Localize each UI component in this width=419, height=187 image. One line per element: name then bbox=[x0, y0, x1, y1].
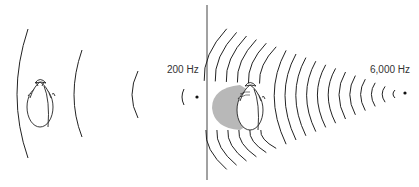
head-top-view-low bbox=[27, 80, 55, 128]
sound-source-dot bbox=[195, 95, 198, 98]
sound-localization-diagram: 200 Hz 6,000 Hz bbox=[0, 0, 419, 187]
wave-arc bbox=[328, 68, 335, 123]
wave-arc bbox=[215, 32, 236, 81]
diagram-canvas bbox=[0, 0, 419, 187]
wave-arc bbox=[274, 50, 286, 144]
wave-arc bbox=[182, 89, 184, 105]
wave-arc bbox=[371, 83, 375, 107]
wave-arc bbox=[339, 72, 346, 119]
wave-arc bbox=[226, 36, 246, 82]
wave-arc bbox=[261, 130, 276, 148]
wave-arc bbox=[206, 130, 227, 169]
wave-arc bbox=[74, 50, 82, 137]
wave-arc bbox=[382, 86, 385, 102]
sound-source-dot bbox=[403, 91, 406, 94]
wave-arc bbox=[285, 54, 296, 140]
wave-arc bbox=[132, 71, 138, 118]
wave-arc bbox=[350, 76, 356, 115]
panel-low-frequency bbox=[17, 29, 199, 158]
frequency-label-low: 200 Hz bbox=[167, 64, 199, 75]
panel-high-frequency bbox=[204, 29, 407, 170]
wave-arc bbox=[239, 130, 257, 157]
wave-arc bbox=[259, 47, 276, 84]
wave-arc bbox=[17, 29, 28, 158]
wave-arc bbox=[296, 58, 306, 136]
wave-arc bbox=[317, 65, 325, 128]
wave-arc bbox=[393, 90, 395, 98]
frequency-label-high: 6,000 Hz bbox=[370, 64, 410, 75]
wave-arc bbox=[250, 130, 267, 153]
wave-arc bbox=[307, 61, 316, 131]
wave-arc bbox=[361, 79, 366, 110]
